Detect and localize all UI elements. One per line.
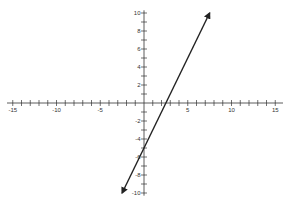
x-tick-label: -5	[98, 107, 104, 113]
x-tick-label: 15	[272, 107, 279, 113]
y-tick-label: -4	[135, 136, 141, 142]
axes	[7, 10, 283, 195]
y-tick-label: -2	[135, 118, 141, 124]
x-tick-label: -10	[52, 107, 61, 113]
y-tick-label: -10	[132, 190, 141, 196]
coordinate-plane: -15-10-551015108642-2-4-6-8-10	[0, 0, 288, 214]
x-tick-label: 10	[228, 107, 235, 113]
x-tick-label: 5	[186, 107, 190, 113]
y-tick-label: 2	[137, 82, 141, 88]
y-tick-label: 8	[137, 28, 141, 34]
x-tick-label: -15	[8, 107, 17, 113]
y-tick-label: 10	[134, 10, 141, 16]
y-tick-label: -8	[135, 172, 141, 178]
y-tick-label: 6	[137, 46, 141, 52]
y-tick-label: 4	[137, 64, 141, 70]
